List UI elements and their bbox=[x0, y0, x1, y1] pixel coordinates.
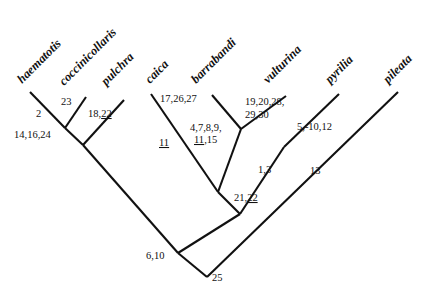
tree-branch-internal-node2-to-14 bbox=[65, 128, 83, 145]
tree-branch-internal-13-to-2122 bbox=[240, 147, 284, 214]
character-label-branch-13: 13 bbox=[310, 165, 321, 176]
character-label-branch-19-20-28: 19,20,28, bbox=[245, 96, 284, 107]
label-part: 21, bbox=[234, 192, 247, 203]
character-label-branch-18-22: 18,22 bbox=[88, 108, 112, 119]
tree-branch-tip-pulchra bbox=[83, 100, 124, 145]
taxon-label-pileata: pileata bbox=[380, 52, 415, 87]
branch-layer bbox=[30, 92, 398, 277]
character-label-branch-5-10-12: 5,-10,12 bbox=[297, 121, 332, 132]
taxon-label-caica: caica bbox=[142, 57, 171, 86]
character-label-node-21-22: 21,22 bbox=[234, 192, 258, 203]
character-label-node-6-10: 6,10 bbox=[146, 250, 164, 261]
tree-branch-internal-14-to-610 bbox=[83, 145, 178, 253]
character-label-node-2: 2 bbox=[36, 108, 41, 119]
character-label-node-4-7-8-9: 4,7,8,9, bbox=[190, 122, 222, 133]
label-part-underlined: 11 bbox=[159, 137, 169, 148]
taxon-label-layer: haematotiscoccinicollarispulchracaicabar… bbox=[14, 25, 414, 89]
character-label-node-25: 25 bbox=[212, 272, 223, 283]
phylogenetic-tree-figure: haematotiscoccinicollarispulchracaicabar… bbox=[0, 0, 434, 295]
character-label-branch-17-26-27: 17,26,27 bbox=[160, 93, 197, 104]
character-label-branch-11: 11 bbox=[159, 137, 169, 148]
tree-branch-tip-pileata bbox=[207, 92, 398, 277]
tree-canvas: haematotiscoccinicollarispulchracaicabar… bbox=[0, 0, 434, 295]
taxon-label-pyrilia: pyrilia bbox=[322, 53, 356, 87]
label-part-underlined: 11 bbox=[194, 134, 204, 145]
tree-branch-internal-610-to-root bbox=[178, 253, 207, 277]
label-part-underlined: 22 bbox=[101, 108, 112, 119]
taxon-label-pulchra: pulchra bbox=[98, 50, 137, 89]
label-part: 18, bbox=[88, 108, 101, 119]
character-label-node-1-3: 1,3 bbox=[258, 164, 271, 175]
character-label-node-11-15: 11,15 bbox=[194, 134, 217, 145]
label-part-underlined: 22 bbox=[247, 192, 258, 203]
label-part: ,15 bbox=[204, 134, 217, 145]
character-label-layer: 22318,2214,16,2417,26,27114,7,8,9,11,151… bbox=[14, 93, 332, 283]
taxon-label-vulturina: vulturina bbox=[260, 42, 304, 86]
character-label-branch-23: 23 bbox=[61, 96, 72, 107]
character-label-node-14-16-24: 14,16,24 bbox=[14, 129, 52, 140]
character-label-branch-29-30: 29,30 bbox=[245, 109, 269, 120]
tree-branch-internal-barr-node bbox=[218, 129, 241, 192]
taxon-label-barrabandi: barrabandi bbox=[188, 35, 239, 86]
tree-branch-internal-2122-to-610 bbox=[178, 214, 240, 253]
